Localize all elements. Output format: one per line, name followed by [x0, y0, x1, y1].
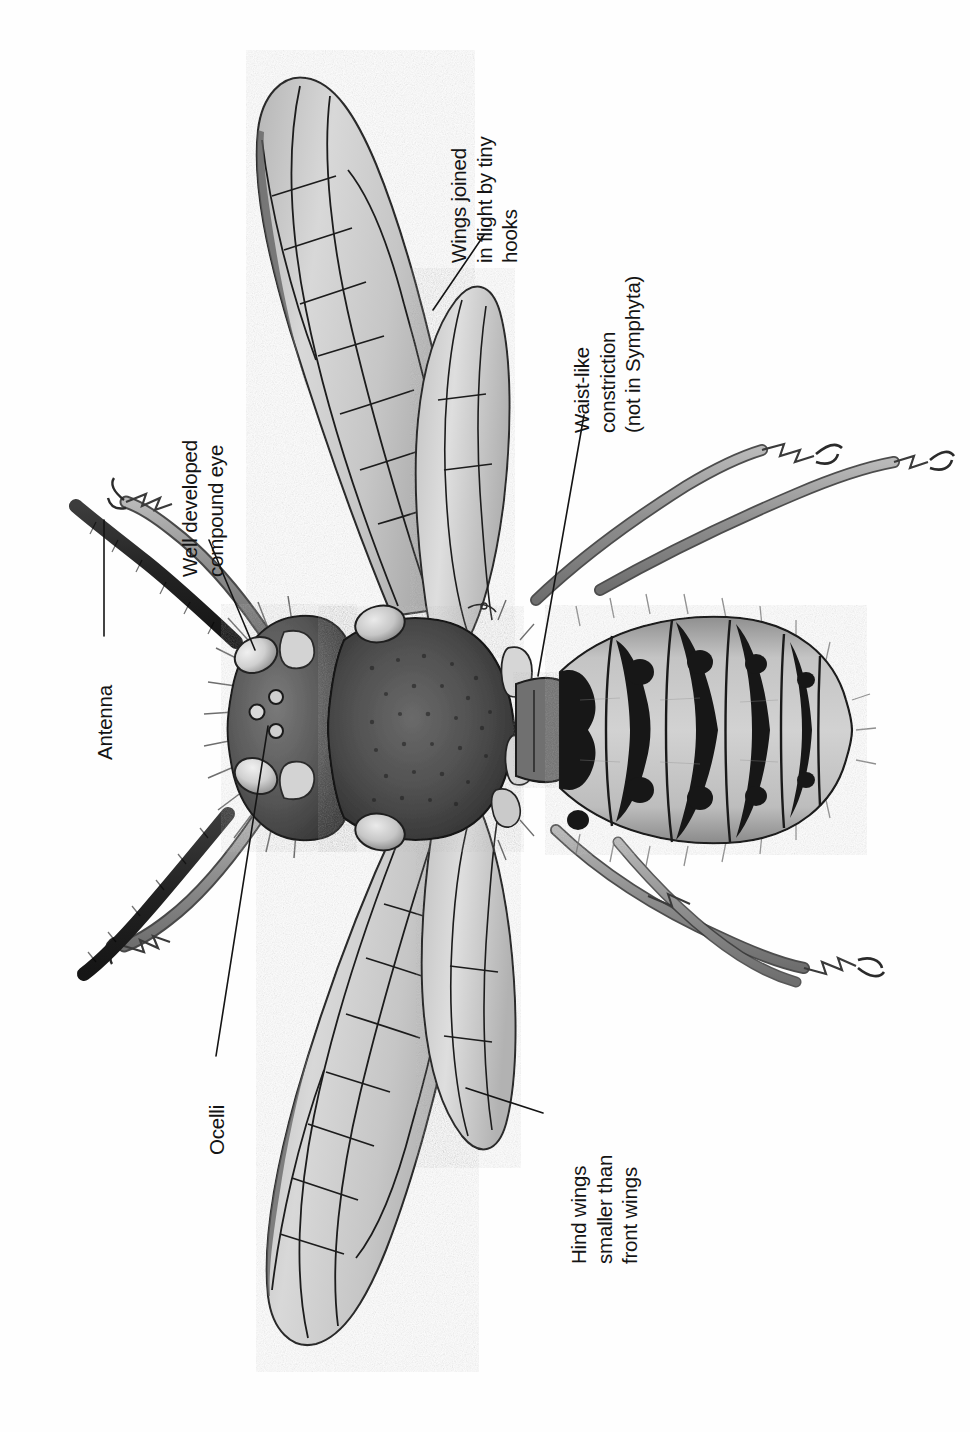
label-wings-joined: Wings joined in flight by tiny hooks: [446, 137, 523, 264]
label-hind-wings-line3: front wings: [617, 1155, 643, 1264]
label-ocelli: Ocelli: [204, 1105, 229, 1155]
label-hind-wings-line2: smaller than: [592, 1155, 618, 1264]
leg-hind-right: [556, 830, 884, 976]
label-hind-wings-line1: Hind wings: [566, 1155, 592, 1264]
label-ocelli-line1: Ocelli: [204, 1105, 229, 1155]
petiole-waist: [516, 678, 566, 782]
label-wings-joined-line1: Wings joined: [446, 137, 472, 264]
label-waist-line3: (not in Symphyta): [620, 276, 646, 433]
label-waist-line2: constriction: [595, 276, 621, 433]
abdomen: [560, 594, 876, 866]
label-waist-line1: Waist-like: [569, 276, 595, 433]
label-compound-eye-line1: Well developed: [177, 440, 203, 577]
illustration-plate: Wings joined in flight by tiny hooks Wel…: [0, 0, 970, 1432]
leg-mid-left: [106, 812, 262, 964]
label-waist-constriction: Waist-like constriction (not in Symphyta…: [569, 276, 646, 433]
leg-mid-right: [600, 452, 954, 590]
label-hind-wings: Hind wings smaller than front wings: [566, 1155, 643, 1264]
label-antenna: Antenna: [92, 685, 117, 760]
label-wings-joined-line3: hooks: [497, 137, 523, 264]
leg-fore-right: [536, 444, 842, 600]
label-wings-joined-line2: in flight by tiny: [472, 137, 498, 264]
thorax: [328, 600, 536, 860]
label-antenna-line1: Antenna: [92, 685, 117, 760]
antenna-lower: [84, 814, 228, 974]
label-compound-eye: Well developed compound eye: [177, 440, 228, 577]
label-compound-eye-line2: compound eye: [203, 440, 229, 577]
